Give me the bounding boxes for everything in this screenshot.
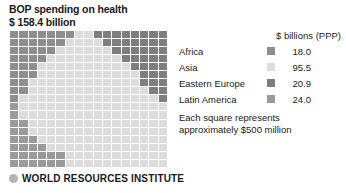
waffle-cell-asia (122, 136, 131, 144)
waffle-cell-asia (47, 136, 56, 144)
chart-title: BOP spending on health (9, 3, 209, 16)
waffle-cell-asia (140, 152, 149, 160)
waffle-cell-asia (38, 136, 47, 144)
waffle-cell-eastern-europe (94, 31, 103, 39)
waffle-cell-asia (56, 103, 65, 111)
waffle-cell-asia (56, 63, 65, 71)
waffle-cell-asia (56, 79, 65, 87)
waffle-cell-africa (38, 39, 47, 47)
waffle-cell-asia (75, 71, 84, 79)
waffle-cell-asia (84, 95, 93, 103)
waffle-cell-eastern-europe (159, 47, 168, 55)
waffle-cell-asia (66, 120, 75, 128)
waffle-cell-asia (94, 71, 103, 79)
waffle-cell-africa (10, 47, 19, 55)
waffle-cell-latin-america (29, 160, 38, 168)
waffle-cell-eastern-europe (149, 55, 158, 63)
wri-logo-dot-icon (9, 174, 18, 183)
waffle-cell-asia (94, 63, 103, 71)
waffle-cell-latin-america (10, 103, 19, 111)
waffle-cell-asia (66, 71, 75, 79)
legend-row: Asia95.5 (179, 59, 344, 75)
waffle-cell-asia (94, 39, 103, 47)
waffle-cell-africa (10, 63, 19, 71)
waffle-cell-africa (47, 39, 56, 47)
waffle-cell-asia (75, 120, 84, 128)
waffle-cell-africa (10, 87, 19, 95)
waffle-cell-latin-america (19, 128, 28, 136)
waffle-cell-asia (103, 152, 112, 160)
waffle-cell-asia (159, 144, 168, 152)
waffle-cell-asia (159, 111, 168, 119)
waffle-cell-asia (149, 136, 158, 144)
waffle-cell-asia (94, 47, 103, 55)
waffle-cell-asia (84, 160, 93, 168)
waffle-cell-asia (47, 79, 56, 87)
waffle-cell-asia (149, 160, 158, 168)
waffle-cell-asia (56, 55, 65, 63)
waffle-cell-asia (66, 128, 75, 136)
waffle-cell-africa (66, 31, 75, 39)
waffle-cell-asia (38, 128, 47, 136)
waffle-cell-asia (131, 144, 140, 152)
waffle-cell-asia (84, 79, 93, 87)
note-line-2: approximately $500 million (179, 124, 344, 136)
waffle-cell-asia (47, 71, 56, 79)
waffle-cell-eastern-europe (131, 47, 140, 55)
waffle-cell-asia (84, 63, 93, 71)
waffle-cell-latin-america (38, 144, 47, 152)
waffle-cell-eastern-europe (112, 39, 121, 47)
waffle-cell-africa (10, 95, 19, 103)
waffle-cell-asia (38, 111, 47, 119)
waffle-cell-asia (84, 120, 93, 128)
waffle-cell-africa (29, 31, 38, 39)
waffle-cell-asia (66, 39, 75, 47)
waffle-grid (10, 31, 168, 168)
waffle-cell-africa (29, 71, 38, 79)
latin-america-swatch (267, 95, 275, 103)
waffle-cell-asia (149, 144, 158, 152)
waffle-cell-eastern-europe (103, 39, 112, 47)
waffle-cell-asia (38, 103, 47, 111)
waffle-cell-asia (112, 79, 121, 87)
waffle-cell-asia (159, 120, 168, 128)
waffle-cell-eastern-europe (159, 87, 168, 95)
waffle-cell-asia (29, 128, 38, 136)
waffle-cell-asia (47, 95, 56, 103)
waffle-cell-asia (56, 87, 65, 95)
waffle-cell-eastern-europe (159, 63, 168, 71)
waffle-cell-asia (29, 79, 38, 87)
waffle-cell-asia (75, 144, 84, 152)
note-line-1: Each square represents (179, 112, 344, 124)
waffle-cell-latin-america (10, 128, 19, 136)
waffle-cell-latin-america (19, 120, 28, 128)
waffle-cell-africa (29, 47, 38, 55)
waffle-cell-asia (66, 47, 75, 55)
waffle-cell-asia (103, 120, 112, 128)
waffle-cell-latin-america (10, 136, 19, 144)
waffle-cell-asia (122, 120, 131, 128)
waffle-cell-asia (75, 87, 84, 95)
waffle-cell-asia (94, 160, 103, 168)
legend-label: Africa (179, 46, 267, 57)
waffle-cell-asia (38, 79, 47, 87)
waffle-cell-asia (38, 63, 47, 71)
waffle-cell-asia (131, 128, 140, 136)
africa-swatch (267, 47, 275, 55)
waffle-cell-asia (56, 136, 65, 144)
waffle-cell-africa (19, 87, 28, 95)
waffle-cell-asia (131, 71, 140, 79)
waffle-cell-asia (103, 128, 112, 136)
waffle-cell-asia (47, 63, 56, 71)
waffle-cell-asia (84, 31, 93, 39)
waffle-cell-latin-america (29, 136, 38, 144)
waffle-cell-asia (149, 95, 158, 103)
waffle-cell-eastern-europe (149, 71, 158, 79)
eastern-europe-swatch (267, 79, 275, 87)
waffle-cell-asia (66, 63, 75, 71)
waffle-cell-asia (66, 79, 75, 87)
legend-label: Eastern Europe (179, 78, 267, 89)
waffle-cell-asia (38, 120, 47, 128)
waffle-cell-africa (10, 39, 19, 47)
legend-label: Asia (179, 62, 267, 73)
